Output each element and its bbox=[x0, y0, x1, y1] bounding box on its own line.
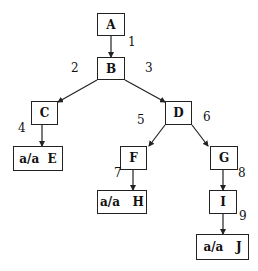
node-i: I bbox=[209, 190, 237, 214]
edge-label-4: 4 bbox=[18, 121, 26, 135]
node-e: a/a E bbox=[13, 146, 63, 171]
edge-d-f bbox=[149, 125, 165, 146]
edge-label-3: 3 bbox=[145, 61, 153, 75]
edge-b-d bbox=[125, 80, 165, 102]
node-c: C bbox=[31, 101, 58, 125]
node-f: F bbox=[120, 146, 147, 170]
edge-label-5: 5 bbox=[137, 113, 145, 127]
edge-label-6: 6 bbox=[203, 110, 211, 124]
node-g: G bbox=[210, 146, 238, 170]
edge-label-2: 2 bbox=[71, 61, 79, 75]
edge-d-g bbox=[192, 125, 208, 146]
node-j: a/a J bbox=[196, 234, 249, 260]
edge-label-9: 9 bbox=[239, 209, 247, 223]
node-b: B bbox=[97, 57, 125, 80]
edge-label-1: 1 bbox=[128, 35, 136, 49]
edge-label-7: 7 bbox=[114, 166, 122, 180]
edge-b-c bbox=[58, 80, 97, 102]
edge-label-8: 8 bbox=[238, 166, 246, 180]
node-d: D bbox=[165, 101, 192, 125]
node-h: a/a H bbox=[97, 190, 147, 214]
node-a: A bbox=[97, 13, 125, 36]
